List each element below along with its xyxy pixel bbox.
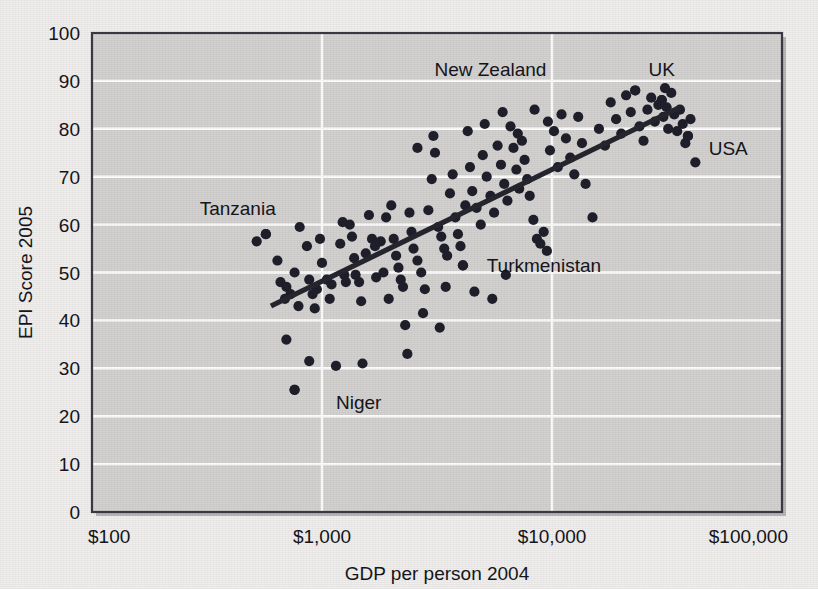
data-point bbox=[402, 349, 412, 359]
y-tick-label-10: 10 bbox=[59, 454, 80, 475]
annotation-label-turkmenistan: Turkmenistan bbox=[487, 255, 601, 276]
data-point bbox=[465, 162, 475, 172]
data-point bbox=[489, 208, 499, 218]
data-point bbox=[345, 220, 355, 230]
data-point bbox=[525, 191, 535, 201]
annotation-label-tanzania: Tanzania bbox=[200, 198, 276, 219]
data-point bbox=[310, 303, 320, 313]
data-point bbox=[666, 88, 676, 98]
x-tick-label-1000: $1,000 bbox=[293, 526, 351, 547]
data-point bbox=[478, 150, 488, 160]
data-point bbox=[315, 234, 325, 244]
data-point-turkmenistan bbox=[458, 260, 468, 270]
data-point bbox=[505, 121, 515, 131]
data-point bbox=[480, 119, 490, 129]
data-point bbox=[378, 267, 388, 277]
data-point bbox=[293, 301, 303, 311]
data-point bbox=[252, 236, 262, 246]
data-point bbox=[561, 133, 571, 143]
data-point bbox=[430, 148, 440, 158]
data-point bbox=[427, 174, 437, 184]
y-tick-label-70: 70 bbox=[59, 167, 80, 188]
data-point bbox=[499, 179, 509, 189]
data-point bbox=[529, 105, 539, 115]
data-point bbox=[408, 243, 418, 253]
y-tick-label-60: 60 bbox=[59, 215, 80, 236]
data-point bbox=[508, 143, 518, 153]
data-point bbox=[587, 212, 597, 222]
data-point bbox=[569, 169, 579, 179]
data-point bbox=[528, 215, 538, 225]
annotation-label-uk: UK bbox=[649, 59, 676, 80]
scatter-chart-canvas: 0102030405060708090100$100$1,000$10,000$… bbox=[0, 0, 818, 589]
data-point bbox=[463, 126, 473, 136]
data-point bbox=[476, 220, 486, 230]
data-point bbox=[423, 205, 433, 215]
y-tick-label-30: 30 bbox=[59, 358, 80, 379]
data-point-uk bbox=[657, 95, 667, 105]
chart-figure: 0102030405060708090100$100$1,000$10,000$… bbox=[0, 0, 818, 589]
data-point bbox=[289, 267, 299, 277]
y-tick-label-20: 20 bbox=[59, 406, 80, 427]
data-point bbox=[436, 231, 446, 241]
data-point bbox=[577, 138, 587, 148]
data-point bbox=[357, 358, 367, 368]
data-point bbox=[690, 157, 700, 167]
data-point bbox=[511, 164, 521, 174]
data-point bbox=[606, 97, 616, 107]
data-point bbox=[626, 107, 636, 117]
data-point bbox=[685, 114, 695, 124]
y-axis-title: EPI Score 2005 bbox=[15, 206, 36, 339]
data-point bbox=[441, 282, 451, 292]
x-tick-label-100000: $100,000 bbox=[709, 526, 788, 547]
data-point bbox=[442, 251, 452, 261]
data-point bbox=[594, 124, 604, 134]
annotation-label-niger: Niger bbox=[336, 392, 382, 413]
data-point bbox=[331, 361, 341, 371]
data-point-niger bbox=[289, 385, 299, 395]
data-point bbox=[467, 186, 477, 196]
data-point bbox=[519, 155, 529, 165]
data-point bbox=[404, 208, 414, 218]
data-point bbox=[335, 239, 345, 249]
x-tick-label-100: $100 bbox=[88, 526, 130, 547]
data-point bbox=[455, 241, 465, 251]
data-point bbox=[638, 136, 648, 146]
data-point bbox=[642, 105, 652, 115]
x-tick-label-10000: $10,000 bbox=[518, 526, 587, 547]
data-point bbox=[453, 229, 463, 239]
data-point bbox=[539, 227, 549, 237]
data-point bbox=[381, 212, 391, 222]
data-point bbox=[412, 255, 422, 265]
data-point bbox=[281, 334, 291, 344]
data-point bbox=[400, 320, 410, 330]
data-point bbox=[317, 258, 327, 268]
data-point bbox=[272, 255, 282, 265]
data-point bbox=[448, 169, 458, 179]
data-point-tanzania bbox=[261, 229, 271, 239]
data-point bbox=[498, 107, 508, 117]
data-point bbox=[325, 294, 335, 304]
y-tick-label-80: 80 bbox=[59, 119, 80, 140]
data-point bbox=[428, 131, 438, 141]
data-point bbox=[391, 251, 401, 261]
data-point bbox=[482, 172, 492, 182]
y-tick-label-50: 50 bbox=[59, 263, 80, 284]
data-point bbox=[502, 196, 512, 206]
data-point bbox=[376, 236, 386, 246]
x-axis-title: GDP per person 2004 bbox=[345, 563, 530, 584]
data-point bbox=[487, 294, 497, 304]
data-point bbox=[304, 356, 314, 366]
data-point bbox=[549, 126, 559, 136]
data-point bbox=[420, 284, 430, 294]
data-point bbox=[469, 287, 479, 297]
annotation-label-new-zealand: New Zealand bbox=[434, 59, 546, 80]
data-point bbox=[354, 277, 364, 287]
data-point bbox=[556, 109, 566, 119]
data-point bbox=[621, 90, 631, 100]
data-point bbox=[393, 263, 403, 273]
data-point-new-zealand bbox=[630, 85, 640, 95]
data-point bbox=[663, 124, 673, 134]
data-point bbox=[386, 200, 396, 210]
data-point bbox=[412, 143, 422, 153]
